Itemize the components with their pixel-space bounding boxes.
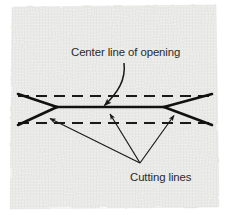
label-cutting-lines: Cutting lines [130, 171, 191, 183]
figure-root: Center line of opening Cutting lines [0, 0, 228, 215]
dashed-stitch-lines [18, 96, 212, 123]
label-center-line-of-opening: Center line of opening [71, 46, 180, 58]
cutting-lines-group [18, 94, 212, 125]
cutting-lines-leaders [50, 114, 174, 163]
center-line-leader [105, 63, 125, 106]
